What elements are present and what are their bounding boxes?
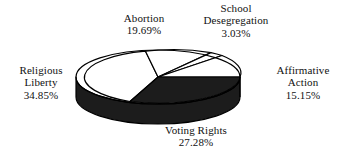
- slice-label-affirmative-name-line2: Action: [258, 76, 348, 88]
- slice-label-affirmative-value: 15.15%: [258, 89, 348, 101]
- slice-label-abortion-name: Abortion: [106, 12, 182, 24]
- slice-label-voting-name: Voting Rights: [140, 124, 252, 136]
- slice-label-abortion-value: 19.69%: [106, 24, 182, 36]
- slice-label-school-name-line1: School: [188, 2, 284, 14]
- slice-label-school-desegregation: School Desegregation 3.03%: [188, 2, 284, 39]
- slice-label-school-name-line2: Desegregation: [188, 14, 284, 26]
- slice-label-religious-name-line1: Religious: [2, 64, 80, 76]
- slice-label-affirmative-name-line1: Affirmative: [258, 64, 348, 76]
- slice-label-abortion: Abortion 19.69%: [106, 12, 182, 37]
- slice-label-affirmative-action: Affirmative Action 15.15%: [258, 64, 348, 101]
- pie-chart-figure: Abortion 19.69% School Desegregation 3.0…: [0, 0, 349, 164]
- slice-label-religious-value: 34.85%: [2, 89, 80, 101]
- slice-label-religious-name-line2: Liberty: [2, 76, 80, 88]
- slice-label-school-value: 3.03%: [188, 27, 284, 39]
- slice-label-voting-value: 27.28%: [140, 136, 252, 148]
- slice-label-voting-rights: Voting Rights 27.28%: [140, 124, 252, 149]
- slice-label-religious-liberty: Religious Liberty 34.85%: [2, 64, 80, 101]
